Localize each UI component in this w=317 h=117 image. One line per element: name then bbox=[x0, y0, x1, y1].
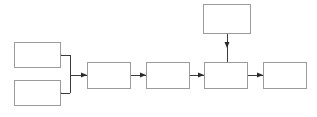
connector-chain-1-to-chain-2 bbox=[130, 73, 146, 78]
diagram-canvas bbox=[0, 0, 317, 117]
connector-chain-3-to-chain-4 bbox=[247, 73, 263, 78]
connector-chain-2-to-chain-3 bbox=[189, 73, 204, 78]
connector-bus-to-chain-1 bbox=[70, 73, 87, 78]
node-chain-1[interactable] bbox=[88, 63, 131, 89]
node-chain-3[interactable] bbox=[205, 63, 248, 89]
connector-top-feeder-to-chain-3 bbox=[225, 33, 230, 62]
node-chain-2[interactable] bbox=[147, 63, 190, 89]
node-top-feeder[interactable] bbox=[204, 5, 251, 34]
node-bottom-left[interactable] bbox=[15, 81, 61, 106]
flowchart-diagram bbox=[0, 0, 317, 117]
node-top-left[interactable] bbox=[15, 43, 61, 68]
node-chain-4[interactable] bbox=[264, 63, 307, 89]
